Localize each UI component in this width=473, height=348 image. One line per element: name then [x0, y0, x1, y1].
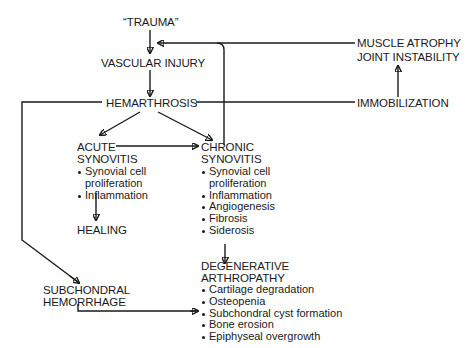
node-immobilization: IMMOBILIZATION	[357, 97, 449, 109]
node-subchondral-hemorrhage-line2: HEMORRHAGE	[43, 296, 126, 308]
node-hemarthrosis: HEMARTHROSIS	[106, 97, 197, 109]
node-muscle-atrophy: MUSCLE ATROPHY	[357, 37, 461, 49]
node-joint-instability: JOINT INSTABILITY	[357, 51, 460, 63]
node-subchondral-hemorrhage-line1: SUBCHONDRAL	[43, 284, 130, 296]
node-vascular-injury: VASCULAR INJURY	[101, 57, 205, 69]
line-chronic-to-feedback	[217, 43, 224, 145]
hemophilic-arthropathy-diagram: “TRAUMA” VASCULAR INJURY HEMARTHROSIS MU…	[0, 0, 473, 348]
arrow-hemarthrosis-to-acute	[100, 112, 140, 135]
arrow-hemarthrosis-to-chronic	[158, 112, 212, 140]
node-chronic-synovitis-title1: CHRONIC	[201, 141, 254, 153]
node-trauma: “TRAUMA”	[123, 16, 178, 28]
bullet-item: Osteopenia	[201, 296, 342, 308]
bullet-continuation: proliferation	[77, 178, 148, 190]
node-acute-synovitis-title2: SYNOVITIS	[77, 153, 137, 165]
bullet-item: Epiphyseal overgrowth	[201, 331, 342, 343]
bullet-continuation: proliferation	[201, 178, 275, 190]
chronic-synovitis-bullets: Synovial cell proliferation Inflammation…	[201, 166, 275, 237]
node-healing: HEALING	[77, 224, 127, 236]
node-chronic-synovitis-title2: SYNOVITIS	[201, 153, 261, 165]
bullet-item: Inflammation	[77, 190, 148, 202]
node-acute-synovitis-title1: ACUTE	[77, 141, 115, 153]
acute-synovitis-bullets: Synovial cell proliferation Inflammation	[77, 166, 148, 201]
bullet-item: Siderosis	[201, 225, 275, 237]
degenerative-arthropathy-bullets: Cartilage degradation Osteopenia Subchon…	[201, 284, 342, 343]
node-degenerative-title1: DEGENERATIVE	[201, 260, 289, 272]
